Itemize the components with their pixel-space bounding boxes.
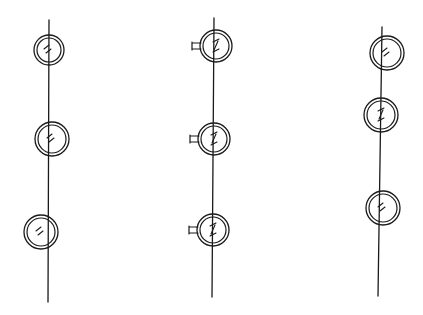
bead-element <box>370 36 404 70</box>
column-3 <box>364 27 404 296</box>
bead-element <box>189 214 229 246</box>
hatch-mark <box>36 227 43 235</box>
vertical-shaft <box>212 18 214 297</box>
column-2 <box>189 18 232 297</box>
bead-element <box>35 122 69 156</box>
shaft-bead-diagram <box>0 0 423 315</box>
diagram-canvas <box>0 0 423 315</box>
column-1 <box>24 20 69 302</box>
break-mark <box>211 132 217 145</box>
bead-element <box>24 215 58 249</box>
bead-element <box>366 191 400 225</box>
hatch-mark <box>382 48 389 56</box>
bead-element <box>192 30 232 62</box>
hatch-mark <box>44 45 51 53</box>
bead-element <box>190 123 230 155</box>
